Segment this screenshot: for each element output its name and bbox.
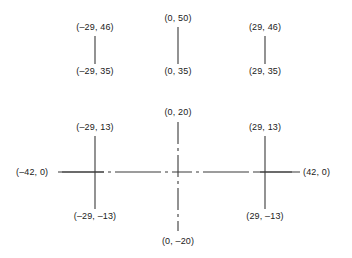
label-mid-right-bottom: (29, –13)	[246, 211, 283, 221]
label-mid-center-bottom: (0, –20)	[162, 236, 194, 246]
label-upper-left-bottom: (–29, 35)	[76, 66, 113, 76]
label-mid-left-top: (–29, 13)	[76, 122, 113, 132]
label-upper-right-top: (29, 46)	[249, 22, 281, 32]
label-mid-right-top: (29, 13)	[249, 122, 281, 132]
diagram-canvas	[0, 0, 352, 258]
label-upper-right-bottom: (29, 35)	[249, 66, 281, 76]
label-mid-center-top: (0, 20)	[164, 107, 191, 117]
label-upper-center-bottom: (0, 35)	[164, 66, 191, 76]
label-axis-right-end: (42, 0)	[303, 167, 330, 177]
label-axis-left-end: (–42, 0)	[16, 167, 48, 177]
label-upper-center-top: (0, 50)	[164, 13, 191, 23]
label-mid-left-bottom: (–29, –13)	[74, 211, 117, 221]
label-upper-left-top: (–29, 46)	[76, 22, 113, 32]
coordinate-diagram: (–29, 46) (–29, 35) (0, 50) (0, 35) (29,…	[0, 0, 352, 258]
